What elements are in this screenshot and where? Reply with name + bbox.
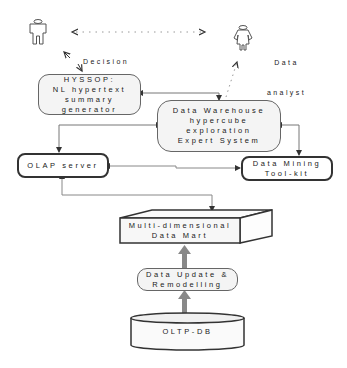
data-mart-line-2: Data Mart bbox=[152, 231, 208, 241]
data-analyst-person-icon bbox=[234, 26, 252, 51]
data-update-line-2: Remodelling bbox=[152, 280, 222, 290]
data-mining-line-1: Data Mining bbox=[253, 159, 322, 169]
hyssop-line-2: NL hypertext bbox=[53, 85, 126, 95]
olap-server-node: OLAP server bbox=[17, 153, 109, 178]
data-update-line-1: Data Update & bbox=[146, 270, 229, 280]
hyssop-line-3: summary bbox=[65, 95, 114, 105]
data-mart-node: Multi-dimensional Data Mart bbox=[120, 218, 240, 243]
oltp-db-node: OLTP-DB bbox=[131, 323, 244, 341]
oltp-db-label: OLTP-DB bbox=[162, 327, 212, 337]
data-mining-line-2: Tool-kit bbox=[265, 169, 310, 179]
edge-olap-data-mining bbox=[109, 166, 240, 168]
data-analyst-label-line2: analyst bbox=[267, 88, 306, 98]
edge-hyssop-data-warehouse bbox=[142, 93, 219, 100]
data-mining-node: Data Mining Tool-kit bbox=[241, 156, 333, 181]
thick-arrow-update-to-mart bbox=[178, 245, 191, 268]
olap-server-label: OLAP server bbox=[27, 161, 98, 171]
edge-decision-maker-hyssop-down bbox=[78, 64, 82, 71]
data-update-node: Data Update & Remodelling bbox=[137, 268, 238, 291]
data-warehouse-node: Data Warehouse hypercube exploration Exp… bbox=[157, 100, 281, 152]
data-mart-line-1: Multi-dimensional bbox=[129, 221, 232, 231]
hyssop-line-4: generator bbox=[62, 105, 118, 115]
decision-maker-person-icon bbox=[30, 20, 46, 45]
data-analyst-label-line1: Data bbox=[267, 58, 306, 68]
thick-arrow-oltp-to-update bbox=[178, 290, 191, 314]
hyssop-node: HYSSOP: NL hypertext summary generator bbox=[38, 74, 141, 115]
hyssop-line-1: HYSSOP: bbox=[64, 75, 116, 85]
decision-maker-label-line1: Decision bbox=[83, 57, 129, 67]
edge-data-analyst-data-warehouse bbox=[226, 62, 237, 97]
edge-data-warehouse-olap bbox=[59, 125, 157, 152]
edge-decision-maker-hyssop-up bbox=[64, 52, 70, 58]
edge-olap-data-mart bbox=[62, 178, 212, 211]
edge-data-warehouse-data-mining bbox=[281, 125, 299, 155]
architecture-diagram: Decision maker Data analyst HYSSOP: NL h… bbox=[0, 0, 347, 368]
data-warehouse-line-1: Data Warehouse bbox=[173, 106, 265, 116]
data-warehouse-line-2: hypercube bbox=[190, 116, 248, 126]
data-warehouse-line-4: Expert System bbox=[178, 136, 261, 146]
data-warehouse-line-3: exploration bbox=[186, 126, 251, 136]
